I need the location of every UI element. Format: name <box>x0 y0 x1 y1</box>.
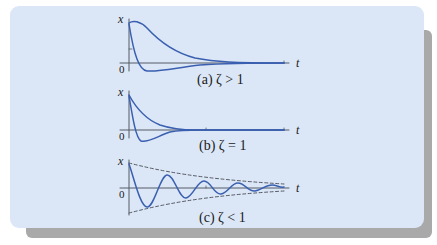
plot-a-caption: (a) ζ > 1 <box>197 72 244 88</box>
upper-envelope <box>129 163 284 184</box>
overdamped-curve-1 <box>129 21 284 63</box>
plot-a-y-label: x <box>117 12 124 26</box>
plot-c <box>120 160 289 215</box>
plot-c-y-label: x <box>117 154 124 168</box>
plot-a <box>120 19 289 71</box>
overdamped-curve-2 <box>129 24 284 71</box>
plot-c-caption: (c) ζ < 1 <box>199 210 246 226</box>
critical-curve-2 <box>129 96 284 141</box>
underdamped-curve <box>129 164 284 207</box>
plot-b-t-label: t <box>296 123 300 137</box>
plot-b <box>120 91 289 141</box>
plot-c-t-label: t <box>296 181 300 195</box>
plot-b-origin-label: 0 <box>119 130 125 142</box>
plot-c-origin-label: 0 <box>119 188 125 200</box>
plot-a-origin-label: 0 <box>119 63 125 75</box>
plot-b-y-label: x <box>117 85 124 99</box>
plot-b-caption: (b) ζ = 1 <box>199 138 247 154</box>
damping-figure: x 0 t (a) ζ > 1 x 0 t (b) ζ = 1 x 0 t (c… <box>0 0 437 245</box>
critical-curve-1 <box>129 95 284 130</box>
plot-a-t-label: t <box>296 56 300 70</box>
